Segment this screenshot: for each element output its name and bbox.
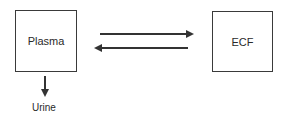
urine-label: Urine	[32, 102, 56, 113]
arrow-plasma-to-urine	[41, 76, 49, 97]
arrow-plasma-to-ecf	[100, 30, 194, 38]
arrow-ecf-to-plasma	[94, 44, 188, 52]
